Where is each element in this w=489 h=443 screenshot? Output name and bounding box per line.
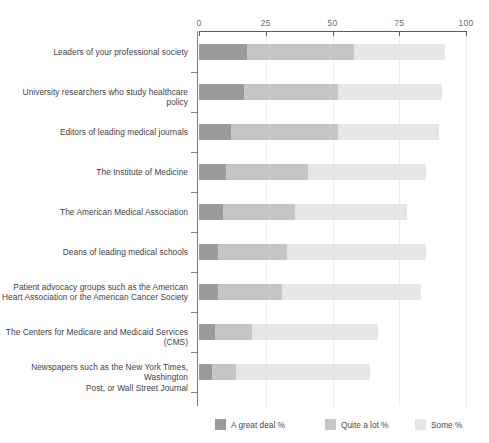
bar-segment	[282, 284, 421, 300]
legend-item[interactable]: Some %	[415, 419, 462, 430]
legend-swatch-icon	[415, 419, 426, 430]
x-axis-tick-label: 25	[261, 18, 271, 28]
category-label-line: Patient advocacy groups such as the Amer…	[0, 282, 188, 293]
category-label-line: The American Medical Association	[0, 207, 188, 218]
x-axis-tick	[333, 31, 334, 36]
x-axis-tick-labels: 0255075100	[199, 18, 466, 32]
bar-segment	[236, 364, 370, 380]
stacked-bar	[199, 324, 378, 340]
bar-segment	[199, 84, 244, 100]
y-axis-tick	[191, 272, 197, 273]
category-label: University researchers who study healthc…	[0, 87, 188, 108]
category-label-line: The Institute of Medicine	[0, 167, 188, 178]
bar-segment	[247, 44, 354, 60]
y-axis-tick	[191, 152, 197, 153]
chart-row: University researchers who study healthc…	[0, 72, 489, 112]
bar-segment	[244, 84, 337, 100]
x-axis-tick	[399, 31, 400, 36]
category-label: The Centers for Medicare and Medicaid Se…	[0, 327, 188, 348]
bar-segment	[295, 204, 407, 220]
bar-segment	[231, 124, 338, 140]
stacked-bar	[199, 164, 426, 180]
chart-row: Deans of leading medical schools	[0, 232, 489, 272]
category-label-line: The Centers for Medicare and Medicaid Se…	[0, 327, 188, 348]
y-axis-tick	[191, 232, 197, 233]
y-axis-tick	[191, 112, 197, 113]
bar-segment	[223, 204, 295, 220]
legend-label: A great deal %	[231, 420, 285, 430]
y-axis-tick	[191, 192, 197, 193]
bar-segment	[212, 364, 236, 380]
x-axis-tick-label: 0	[197, 18, 202, 28]
y-axis-tick	[191, 72, 197, 73]
bar-segment	[199, 284, 218, 300]
stacked-bar	[199, 124, 439, 140]
category-label-line: Deans of leading medical schools	[0, 247, 188, 258]
bar-segment	[199, 124, 231, 140]
bar-segment	[252, 324, 377, 340]
category-label: Newspapers such as the New York Times, W…	[0, 362, 188, 394]
y-axis-tick	[191, 312, 197, 313]
bar-segment	[308, 164, 425, 180]
legend-swatch-icon	[215, 419, 226, 430]
category-label: Leaders of your professional society	[0, 47, 188, 58]
bar-segment	[199, 204, 223, 220]
stacked-bar	[199, 364, 370, 380]
bar-segment	[287, 244, 426, 260]
chart-row: The American Medical Association	[0, 192, 489, 232]
stacked-bar	[199, 244, 426, 260]
category-label-line: Heart Association or the American Cancer…	[0, 292, 188, 303]
stacked-bar-chart: 0255075100 Leaders of your professional …	[0, 0, 489, 443]
bar-segment	[354, 44, 445, 60]
stacked-bar	[199, 204, 407, 220]
y-axis-tick	[191, 392, 197, 393]
x-axis-tick-label: 50	[328, 18, 338, 28]
bar-segment	[199, 44, 247, 60]
bar-segment	[218, 244, 287, 260]
stacked-bar	[199, 84, 442, 100]
category-label: The Institute of Medicine	[0, 167, 188, 178]
chart-row: The Institute of Medicine	[0, 152, 489, 192]
legend-label: Some %	[431, 420, 462, 430]
category-label: The American Medical Association	[0, 207, 188, 218]
x-axis-tick-label: 100	[459, 18, 474, 28]
category-label: Editors of leading medical journals	[0, 127, 188, 138]
category-label: Patient advocacy groups such as the Amer…	[0, 282, 188, 303]
x-axis-tick-label: 75	[394, 18, 404, 28]
stacked-bar	[199, 44, 445, 60]
bar-segment	[199, 324, 215, 340]
bar-segment	[338, 84, 442, 100]
bar-segment	[215, 324, 252, 340]
category-label: Deans of leading medical schools	[0, 247, 188, 258]
category-label-line: Post, or Wall Street Journal	[0, 383, 188, 394]
bar-segment	[338, 124, 439, 140]
legend-swatch-icon	[325, 419, 336, 430]
x-axis-tick	[466, 31, 467, 36]
chart-row: Patient advocacy groups such as the Amer…	[0, 272, 489, 312]
category-label-line: Leaders of your professional society	[0, 47, 188, 58]
chart-row: Leaders of your professional society	[0, 32, 489, 72]
x-axis-tick	[266, 31, 267, 36]
category-label-line: University researchers who study healthc…	[0, 87, 188, 108]
chart-row: The Centers for Medicare and Medicaid Se…	[0, 312, 489, 352]
bar-segment	[199, 164, 226, 180]
bar-segment	[199, 364, 212, 380]
legend-item[interactable]: Quite a lot %	[325, 419, 389, 430]
category-label-line: Editors of leading medical journals	[0, 127, 188, 138]
legend-label: Quite a lot %	[341, 420, 389, 430]
bar-segment	[199, 244, 218, 260]
bar-segment	[218, 284, 282, 300]
chart-row: Editors of leading medical journals	[0, 112, 489, 152]
y-axis-tick	[191, 352, 197, 353]
bar-segment	[226, 164, 309, 180]
x-axis-tick	[199, 31, 200, 36]
stacked-bar	[199, 284, 421, 300]
chart-row: Newspapers such as the New York Times, W…	[0, 352, 489, 392]
legend-item[interactable]: A great deal %	[215, 419, 285, 430]
category-label-line: Newspapers such as the New York Times, W…	[0, 362, 188, 383]
